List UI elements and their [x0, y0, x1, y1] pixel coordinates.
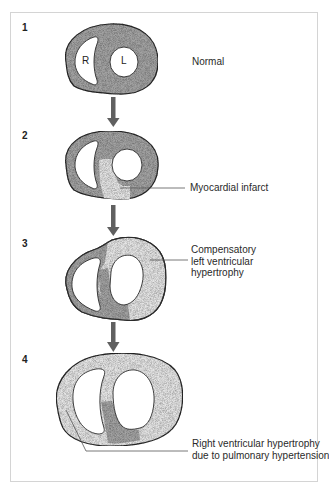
stage-2-left-ventricle: [112, 149, 142, 181]
left-ventricle-label: L: [121, 55, 127, 66]
stage-4-section: [56, 353, 182, 446]
arrow-1-to-2: [107, 97, 120, 127]
arrow-2-to-3: [107, 205, 120, 236]
label-myocardial-infarct: Myocardial infarct: [190, 182, 268, 194]
label-rv-hypertrophy: Right ventricular hypertrophy due to pul…: [192, 438, 329, 461]
stage-number-3: 3: [22, 238, 28, 249]
stage-4-left-ventricle: [113, 370, 154, 429]
stage-number-1: 1: [22, 22, 28, 33]
stage-number-2: 2: [22, 130, 28, 141]
stage-number-4: 4: [22, 354, 28, 365]
arrow-3-to-4: [107, 322, 120, 352]
right-ventricle-label: R: [82, 55, 89, 66]
stage-3-section: [66, 237, 166, 320]
stage-1-section: [66, 24, 158, 94]
label-normal: Normal: [192, 56, 224, 68]
label-compensatory-lvh: Compensatory left ventricular hypertroph…: [191, 244, 256, 279]
